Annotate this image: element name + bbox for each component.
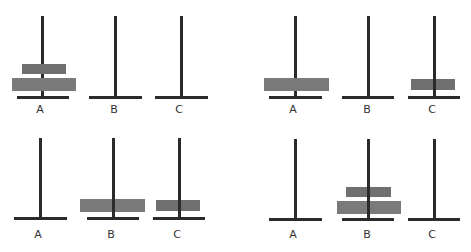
peg-b-label: B xyxy=(104,104,124,116)
disk-large xyxy=(264,78,329,91)
peg-c xyxy=(178,138,181,219)
peg-b-label: B xyxy=(357,104,377,116)
peg-a-label: A xyxy=(28,229,48,241)
peg-b-label: B xyxy=(101,229,121,241)
peg-c xyxy=(433,16,436,98)
peg-c-label: C xyxy=(422,104,442,116)
peg-c-label: C xyxy=(169,104,189,116)
peg-a-label: A xyxy=(30,104,50,116)
peg-a xyxy=(294,139,297,220)
disk-large xyxy=(12,78,76,91)
peg-b xyxy=(367,16,370,98)
peg-b xyxy=(114,16,117,98)
peg-c xyxy=(433,139,436,220)
peg-b-label: B xyxy=(357,229,377,241)
peg-c-label: C xyxy=(422,229,442,241)
peg-a-label: A xyxy=(283,229,303,241)
peg-a-label: A xyxy=(283,104,303,116)
disk-small xyxy=(22,64,66,74)
peg-c xyxy=(180,16,183,98)
peg-c-label: C xyxy=(167,229,187,241)
peg-a xyxy=(39,138,42,219)
peg-b xyxy=(367,139,370,220)
peg-b xyxy=(112,138,115,219)
